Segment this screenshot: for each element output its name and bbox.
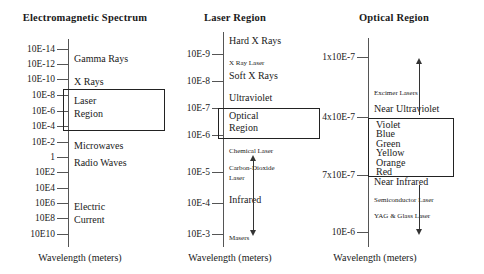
- spectrum-band-label: X Rays: [74, 76, 104, 87]
- axis-tick: [212, 54, 224, 55]
- axis-tick-label: 10E-3: [162, 229, 210, 239]
- laser-band-label: Soft X Rays: [229, 70, 278, 81]
- axis-tick-label: 10E-6: [5, 106, 55, 116]
- axis-tick: [57, 218, 69, 219]
- spectrum-band-label: Gamma Rays: [74, 53, 128, 64]
- axis-tick-label: 10E-9: [162, 49, 210, 59]
- axis-tick-label: 10E-6: [162, 130, 210, 140]
- panel-title-laser-region: Laser Region: [160, 12, 310, 23]
- axis-tick-label: 10E-10: [5, 74, 55, 84]
- axis-tick: [57, 142, 69, 143]
- axis-caption: Wavelength (meters): [300, 252, 450, 263]
- axis-tick: [57, 234, 69, 235]
- axis-tick-label: 10E2: [5, 167, 55, 177]
- laser-region-box-line-1: Laser: [74, 95, 96, 107]
- axis-tick: [212, 203, 224, 204]
- optical-laser-label: Excimer Lasers: [374, 88, 418, 99]
- laser-region-box-line-2: Region: [74, 108, 103, 120]
- laser-band-label: Ultraviolet: [229, 92, 272, 103]
- axis-tick-label: 4x10E-7: [305, 112, 355, 122]
- axis-tick-label: 10E4: [5, 183, 55, 193]
- axis-tick-label: 10E-2: [5, 137, 55, 147]
- axis-tick: [57, 203, 69, 204]
- laser-span-arrow-line: [253, 160, 254, 232]
- laser-type-label: X Ray Laser: [229, 58, 264, 69]
- panel-title-electromagnetic-spectrum: Electromagnetic Spectrum: [0, 12, 170, 23]
- axis-tick-label: 10E-4: [5, 121, 55, 131]
- panel-title-optical-region: Optical Region: [312, 12, 476, 23]
- laser-band-label: Hard X Rays: [229, 35, 281, 46]
- axis-line-laser-region: [223, 32, 224, 247]
- axis-tick-label: 10E-8: [162, 76, 210, 86]
- panel-laser-region: Laser Region 10E-9 10E-8 10E-7 10E-6 10E…: [170, 0, 320, 274]
- laser-type-label: Masers: [229, 233, 249, 244]
- color-item: Red: [376, 167, 405, 176]
- axis-tick-label: 7x10E-7: [305, 170, 355, 180]
- axis-tick: [57, 64, 69, 65]
- laser-span-arrow-head-down-icon: [250, 230, 256, 236]
- visible-color-list: Violet Blue Green Yellow Orange Red: [376, 120, 405, 176]
- axis-tick-label: 10E-4: [162, 198, 210, 208]
- axis-tick-label: 10E10: [5, 229, 55, 239]
- axis-tick: [57, 188, 69, 189]
- optical-region-box-line-2: Region: [229, 122, 258, 134]
- axis-tick: [212, 234, 224, 235]
- axis-tick-label: 10E6: [5, 198, 55, 208]
- optical-laser-label: YAG & Glass Laser: [374, 211, 430, 222]
- axis-tick: [57, 79, 69, 80]
- axis-caption: Wavelength (meters): [155, 252, 305, 263]
- optical-up-arrow-line: [419, 64, 420, 115]
- panel-electromagnetic-spectrum: Electromagnetic Spectrum 10E-14 10E-12 1…: [0, 0, 170, 274]
- axis-tick: [212, 81, 224, 82]
- axis-tick-label: 10E-5: [162, 167, 210, 177]
- optical-region-box-line-1: Optical: [229, 110, 258, 122]
- spectrum-band-label: Current: [74, 214, 105, 225]
- axis-tick: [57, 172, 69, 173]
- optical-laser-label: Semiconductor Laser: [374, 195, 434, 206]
- optical-down-arrow-head-icon: [416, 229, 422, 235]
- laser-type-label: Laser: [229, 173, 245, 184]
- axis-tick-label: 10E-8: [5, 90, 55, 100]
- panel-optical-region: Optical Region 1x10E-7 4x10E-7 7x10E-7 1…: [320, 0, 484, 274]
- axis-tick: [357, 57, 369, 58]
- optical-band-label: Near Ultraviolet: [374, 103, 439, 114]
- axis-tick: [357, 232, 369, 233]
- axis-tick-label: 10E8: [5, 213, 55, 223]
- axis-tick: [212, 172, 224, 173]
- optical-up-arrow-head-icon: [416, 58, 422, 64]
- axis-tick: [57, 157, 69, 158]
- axis-tick-label: 10E-7: [162, 103, 210, 113]
- laser-span-arrow-head-up-icon: [250, 155, 256, 161]
- axis-tick: [57, 49, 69, 50]
- axis-tick-label: 10E-6: [305, 227, 355, 237]
- laser-band-label: Infrared: [229, 194, 261, 205]
- optical-down-arrow-line: [419, 185, 420, 230]
- axis-caption: Wavelength (meters): [0, 252, 160, 263]
- axis-tick-label: 10E-14: [5, 44, 55, 54]
- spectrum-band-label: Microwaves: [74, 140, 123, 151]
- axis-tick-label: 10E-12: [5, 59, 55, 69]
- axis-tick-label: 1: [5, 152, 55, 162]
- spectrum-band-label: Radio Waves: [74, 157, 127, 168]
- spectrum-band-label: Electric: [74, 201, 105, 212]
- axis-tick-label: 1x10E-7: [305, 52, 355, 62]
